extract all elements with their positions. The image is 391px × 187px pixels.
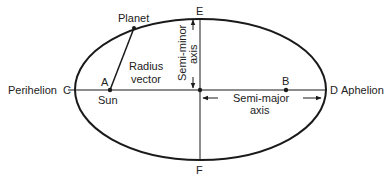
radius-vector-label-line2: vector: [131, 73, 161, 85]
sun-point: [108, 88, 112, 92]
point-d-label: D: [330, 84, 338, 96]
semi-minor-label-line2: axis: [187, 44, 199, 64]
sun-label: Sun: [98, 94, 118, 106]
point-b-label: B: [282, 75, 289, 87]
point-f-label: F: [196, 164, 203, 176]
planet-point: [132, 26, 136, 30]
center-point: [198, 88, 202, 92]
point-c-label: C: [63, 84, 71, 96]
radius-vector-label-line1: Radius: [129, 60, 164, 72]
planet-label: Planet: [118, 12, 149, 24]
point-a-label: A: [101, 76, 109, 88]
perihelion-label: Perihelion: [8, 84, 57, 96]
point-e-label: E: [196, 5, 203, 17]
aphelion-label: Aphelion: [341, 84, 384, 96]
semi-major-label-line2: axis: [250, 104, 270, 116]
orbit-diagram: Planet E F A B Sun Perihelion C D Apheli…: [0, 0, 391, 187]
semi-major-label-line1: Semi-major: [233, 92, 290, 104]
